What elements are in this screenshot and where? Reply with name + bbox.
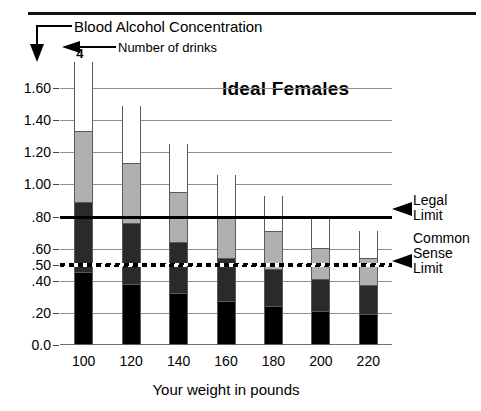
bar-140[interactable] [169, 144, 188, 345]
bar-100[interactable]: 1234 [74, 62, 93, 345]
sense-limit-line-1: Common [413, 231, 470, 246]
x-axis-tick-label: 160 [214, 353, 237, 369]
sense-limit-arrow-head [392, 254, 412, 268]
segment-divider [170, 242, 187, 243]
annotation-legal-limit: Legal Limit [413, 193, 447, 223]
bar-segment-220-drink-4 [360, 230, 377, 259]
bac-leader-line [37, 26, 72, 44]
y-axis-tick-label: 1.40 [24, 113, 51, 127]
bar-segment-220-drink-2 [360, 286, 377, 315]
y-axis-tick [53, 265, 59, 266]
bar-120[interactable] [122, 106, 141, 345]
bar-segment-120-drink-1 [123, 285, 140, 344]
reference-line-legal-limit [60, 216, 392, 219]
gridline [60, 88, 392, 89]
segment-divider [312, 279, 329, 280]
segment-divider [360, 258, 377, 259]
x-axis-tick-label: 100 [72, 353, 95, 369]
bar-segment-160-drink-4 [218, 174, 235, 217]
bar-segment-100-drink-4 [75, 61, 92, 132]
bar-segment-120-drink-2 [123, 224, 140, 285]
legal-limit-line-1: Legal [413, 193, 447, 208]
bar-segment-200-drink-4 [312, 217, 329, 249]
bar-segment-100-drink-1 [75, 273, 92, 344]
figure-top-rule [28, 12, 476, 15]
segment-divider [265, 231, 282, 232]
bar-segment-180-drink-4 [265, 195, 282, 232]
segment-divider [265, 306, 282, 307]
y-axis-tick [53, 313, 59, 314]
segment-divider [312, 248, 329, 249]
annotation-blood-alcohol-concentration: Blood Alcohol Concentration [74, 19, 262, 35]
sense-limit-line-2: Sense [413, 246, 470, 261]
segment-divider [123, 163, 140, 164]
bar-160[interactable] [217, 175, 236, 345]
segment-divider [265, 269, 282, 270]
bar-segment-140-drink-1 [170, 294, 187, 344]
sense-limit-line-3: Limit [413, 261, 470, 276]
segment-divider [75, 272, 92, 273]
y-axis-tick [53, 217, 59, 218]
bar-segment-120-drink-4 [123, 105, 140, 164]
bar-segment-160-drink-3 [218, 217, 235, 259]
chart-figure: Ideal Females 1.601.401.201.00.80.60.50.… [0, 0, 481, 411]
y-axis-tick [53, 88, 59, 89]
y-axis-tick-label: 1.20 [24, 145, 51, 159]
drink-count-label-4: 4 [76, 47, 83, 60]
bar-segment-200-drink-1 [312, 312, 329, 344]
bar-220[interactable] [359, 231, 378, 345]
bar-segment-140-drink-4 [170, 143, 187, 193]
segment-divider [123, 223, 140, 224]
y-axis-tick-label: .50 [32, 258, 51, 272]
segment-divider [360, 314, 377, 315]
bar-segment-140-drink-2 [170, 243, 187, 294]
y-axis-tick [53, 184, 59, 185]
legal-limit-line-2: Limit [413, 208, 447, 223]
segment-divider [123, 284, 140, 285]
segment-divider [75, 202, 92, 203]
y-axis-tick-label: .60 [32, 242, 51, 256]
y-axis-tick-label: .80 [32, 210, 51, 224]
annotation-number-of-drinks: Number of drinks [118, 41, 217, 55]
y-axis-tick [53, 281, 59, 282]
gridline [60, 152, 392, 153]
y-axis-tick [53, 249, 59, 250]
gridline [60, 120, 392, 121]
y-axis-tick-label: 1.60 [24, 81, 51, 95]
bar-segment-100-drink-3 [75, 132, 92, 203]
segment-divider [312, 311, 329, 312]
y-axis-tick-label: 1.00 [24, 177, 51, 191]
segment-divider [360, 285, 377, 286]
segment-divider [75, 131, 92, 132]
y-axis-tick [53, 345, 59, 346]
x-axis-tick-label: 120 [119, 353, 142, 369]
bar-200[interactable] [311, 218, 330, 345]
bac-arrow-head [30, 44, 44, 62]
y-axis-tick [53, 152, 59, 153]
bar-segment-220-drink-1 [360, 315, 377, 344]
annotation-common-sense-limit: Common Sense Limit [413, 231, 470, 276]
y-axis-tick-label: 0.0 [32, 338, 51, 352]
x-axis-tick-label: 140 [167, 353, 190, 369]
segment-divider [170, 192, 187, 193]
segment-divider [170, 293, 187, 294]
reference-line-common-sense-limit [60, 263, 392, 267]
bar-segment-160-drink-1 [218, 302, 235, 344]
x-axis-tick-label: 200 [309, 353, 332, 369]
legal-limit-arrow-head [392, 202, 412, 216]
bar-segment-200-drink-2 [312, 280, 329, 312]
x-axis-tick-label: 180 [262, 353, 285, 369]
segment-divider [218, 258, 235, 259]
x-axis-title: Your weight in pounds [60, 381, 392, 398]
y-axis-tick [53, 120, 59, 121]
plot-area: 1.601.401.201.00.80.60.50.40.200.0123410… [60, 56, 392, 345]
x-axis-tick-label: 220 [357, 353, 380, 369]
bar-segment-180-drink-2 [265, 270, 282, 307]
segment-divider [218, 301, 235, 302]
y-axis-tick-label: .20 [32, 306, 51, 320]
y-axis-tick-label: .40 [32, 274, 51, 288]
bar-segment-180-drink-1 [265, 307, 282, 344]
